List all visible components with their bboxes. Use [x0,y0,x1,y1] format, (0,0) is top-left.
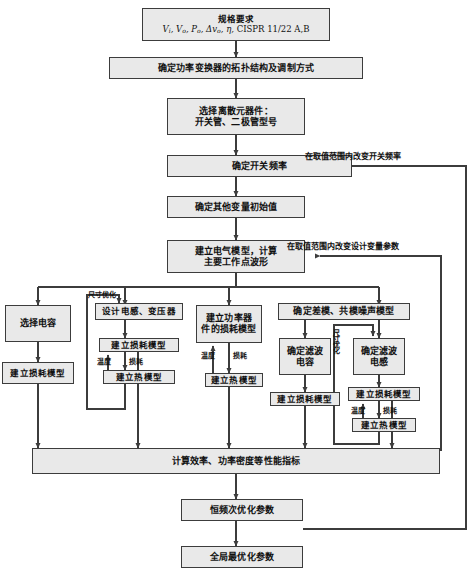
discrete-line1: 选择离散元器件： [199,106,273,116]
edge-label-vary-design-variables: 在取值范围内改变设计变量参数 [287,240,399,251]
node-capacitor-loss-model[interactable]: 建立损耗模型 [2,362,74,384]
node-global-optimal[interactable]: 全局最优化参数 [181,546,303,568]
node-filter-inductor[interactable]: 确定滤波 电感 [353,338,405,375]
node-select-capacitor[interactable]: 选择电容 [5,305,71,342]
edge-label-inductor-temperature: 温度 [97,356,111,366]
node-discrete-components[interactable]: 选择离散元器件： 开关管、二极管型号 [167,98,305,135]
node-topology-selection[interactable]: 确定功率变换器的拓扑结构及调制方式 [109,57,363,79]
filter-ind-line2: 电感 [370,357,388,367]
node-electrical-model[interactable]: 建立电气模型，计算 主要工作点波形 [167,240,305,273]
edge-label-size-optimization-filter: 尺寸优化 [332,329,339,353]
edge-label-device-temperature: 温度 [201,350,215,360]
node-filter-capacitor-loss-model[interactable]: 建立损耗模型 [270,392,340,406]
edge-label-inductor-loss: 损耗 [129,356,143,366]
edge-label-filter-temperature: 温度 [351,405,365,415]
edge-label-size-optimization-inductor: 尺寸优化 [88,289,116,299]
edge-label-filter-loss: 损耗 [383,405,397,415]
edge-label-vary-switching-frequency: 在取值范围内改变开关频率 [305,150,401,161]
node-filter-inductor-loss-model[interactable]: 建立损耗模型 [348,387,420,401]
node-filter-inductor-thermal-model[interactable]: 建立热模型 [352,418,416,432]
node-inductor-loss-model[interactable]: 建立损耗模型 [99,338,179,352]
node-inductor-thermal-model[interactable]: 建立热模型 [103,370,175,384]
spec-parameters: Vi, Vo, Po, Δvo, η, CISPR 11/22 A,B [163,24,310,34]
connector-layer [0,0,472,574]
node-device-loss-model[interactable]: 建立功率器 件的损耗模型 [196,305,262,343]
filter-cap-line2: 电容 [296,357,314,367]
filter-ind-line1: 确定滤波 [361,346,398,356]
node-design-inductor-transformer[interactable]: 设计电感、变压器 [95,303,183,320]
node-other-variables-init[interactable]: 确定其他变量初始值 [167,196,305,218]
electrical-line1: 建立电气模型，计算 [195,246,278,256]
node-filter-capacitor[interactable]: 确定滤波 电容 [279,338,331,375]
device-loss-line2: 件的损耗模型 [201,324,256,334]
device-loss-line1: 建立功率器 [206,313,252,323]
node-constant-frequency-suboptimal[interactable]: 恒频次优化参数 [181,499,303,521]
filter-cap-line1: 确定滤波 [287,346,324,356]
discrete-line2: 开关管、二极管型号 [195,117,278,127]
node-performance-metrics[interactable]: 计算效率、功率密度等性能指标 [32,448,440,474]
node-noise-model[interactable]: 确定差模、共模噪声模型 [278,303,410,320]
spec-title: 规格要求 [218,14,255,24]
node-device-thermal-model[interactable]: 建立热模型 [205,373,263,387]
node-spec-requirements[interactable]: 规格要求 Vi, Vo, Po, Δvo, η, CISPR 11/22 A,B [142,8,330,41]
electrical-line2: 主要工作点波形 [204,257,268,267]
edge-label-device-loss: 损耗 [233,350,247,360]
flowchart-canvas: 规格要求 Vi, Vo, Po, Δvo, η, CISPR 11/22 A,B… [0,0,472,574]
